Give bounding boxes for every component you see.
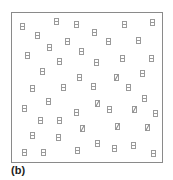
glyph-diagonal-icon (114, 74, 119, 81)
glyph-bar-icon (47, 44, 52, 51)
glyph-bar-icon (95, 140, 100, 147)
glyph-bar-icon (153, 110, 158, 117)
glyph-bar-icon (65, 38, 70, 45)
glyph-bar-icon (92, 29, 97, 36)
glyph-bar-icon (57, 58, 62, 65)
glyph-bar-icon (20, 23, 25, 30)
glyph-bar-icon (150, 19, 155, 26)
glyph-diagonal-icon (115, 123, 120, 130)
figure-label: (b) (11, 164, 25, 176)
glyph-bar-icon (75, 147, 80, 154)
glyph-bar-icon (142, 95, 147, 102)
glyph-bar-icon (57, 117, 62, 124)
glyph-bar-icon (61, 84, 66, 91)
glyph-bar-icon (79, 48, 84, 55)
glyph-bar-icon (94, 59, 99, 66)
glyph-bar-icon (140, 70, 145, 77)
glyph-bar-icon (151, 150, 156, 157)
glyph-bar-icon (54, 18, 59, 25)
glyph-bar-icon (122, 21, 127, 28)
glyph-diagonal-icon (80, 125, 85, 132)
glyph-bar-icon (30, 85, 35, 92)
glyph-bar-icon (22, 149, 27, 156)
glyph-bar-icon (77, 74, 82, 81)
glyph-bar-icon (38, 117, 43, 124)
glyph-bar-icon (40, 68, 45, 75)
glyph-bar-icon (41, 149, 46, 156)
glyph-bar-icon (74, 21, 79, 28)
glyph-bar-icon (126, 84, 131, 91)
glyph-bar-icon (106, 38, 111, 45)
glyph-bar-icon (91, 83, 96, 90)
glyph-bar-icon (22, 105, 27, 112)
glyph-bar-icon (112, 145, 117, 152)
glyph-bar-icon (25, 52, 30, 59)
glyph-bar-icon (74, 109, 79, 116)
glyph-bar-icon (56, 134, 61, 141)
glyph-bar-icon (136, 37, 141, 44)
glyph-bar-icon (120, 55, 125, 62)
glyph-diagonal-icon (95, 100, 100, 107)
glyph-diagonal-icon (132, 106, 137, 113)
glyph-bar-icon (149, 55, 154, 62)
glyph-bar-icon (46, 98, 51, 105)
glyph-bar-icon (131, 142, 136, 149)
glyph-bar-icon (30, 132, 35, 139)
glyph-bar-icon (107, 106, 112, 113)
glyph-diagonal-icon (145, 124, 150, 131)
glyph-bar-icon (35, 32, 40, 39)
